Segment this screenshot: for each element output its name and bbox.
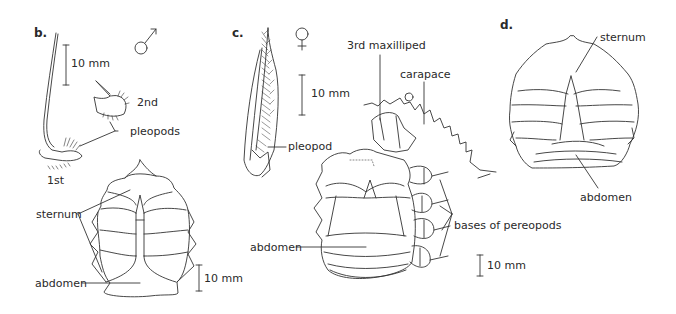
scale-bar-label-c-top: 10 mm	[311, 88, 350, 99]
male-symbol-icon	[135, 42, 147, 54]
label-pleopod: pleopod	[288, 141, 332, 152]
sternum-abdomen-drawing-c	[314, 149, 415, 278]
crab-anatomy-illustration	[0, 0, 676, 314]
label-abdomen-c: abdomen	[250, 242, 302, 253]
label-1st: 1st	[47, 175, 64, 186]
panel-label-c: c.	[232, 27, 244, 39]
panel-label-b: b.	[34, 27, 47, 39]
panel-label-d: d.	[500, 19, 513, 31]
label-abdomen-b: abdomen	[35, 278, 87, 289]
scale-bar-label-b-bottom: 10 mm	[204, 273, 243, 284]
scale-bar-label-b-top: 10 mm	[71, 58, 110, 69]
panel-b-drawings	[39, 29, 202, 297]
panel-d-drawings	[509, 36, 638, 188]
scale-bar-label-c-bottom: 10 mm	[487, 260, 526, 271]
first-pleopod-drawing	[39, 33, 82, 161]
label-3rd-maxilliped: 3rd maxilliped	[347, 40, 426, 51]
label-2nd: 2nd	[137, 97, 158, 108]
label-carapace: carapace	[400, 69, 451, 80]
sternum-abdomen-drawing-b	[97, 160, 189, 297]
label-sternum-b: sternum	[36, 209, 82, 220]
label-pleopods: pleopods	[130, 126, 180, 137]
sternum-abdomen-drawing-d	[509, 36, 638, 168]
second-pleopod-drawing	[94, 81, 126, 116]
label-abdomen-d: abdomen	[580, 192, 632, 203]
label-sternum-d: sternum	[600, 32, 646, 43]
label-bases-of-pereopods: bases of pereopods	[454, 220, 562, 231]
female-symbol-icon	[296, 28, 308, 40]
